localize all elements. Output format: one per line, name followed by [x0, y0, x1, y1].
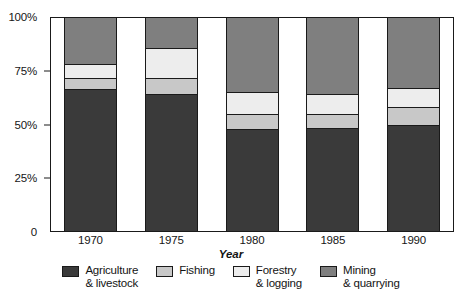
legend-label: Mining & quarrying	[343, 264, 400, 289]
bar-segment	[387, 125, 440, 232]
legend-label: Fishing	[179, 264, 215, 277]
legend-item: Mining & quarrying	[320, 264, 400, 289]
y-tick-label: 0	[31, 226, 37, 238]
bar-segment	[306, 17, 359, 94]
legend-swatch-icon	[233, 266, 250, 277]
legend-label: Agriculture & livestock	[85, 264, 138, 289]
bar-segment	[226, 129, 279, 232]
bar-segment	[145, 17, 198, 48]
plot-area: 100%75%50%25%0	[0, 0, 462, 240]
bar-segment	[387, 17, 440, 88]
bar-segment	[145, 78, 198, 94]
x-axis-title: Year	[0, 248, 462, 260]
bar-segment	[226, 92, 279, 114]
bar-segment	[64, 17, 117, 64]
bars-layer	[50, 17, 454, 232]
bar-group	[64, 17, 117, 232]
y-tick-mark	[44, 124, 51, 125]
x-tick-label: 1985	[320, 234, 345, 246]
legend-swatch-icon	[320, 266, 337, 277]
chart-legend: Agriculture & livestockFishingForestry &…	[0, 264, 462, 298]
legend-item: Fishing	[156, 264, 215, 277]
bar-segment	[226, 114, 279, 130]
bar-segment	[306, 114, 359, 129]
bar-segment	[64, 89, 117, 232]
bar-stack	[145, 17, 198, 232]
bar-stack	[64, 17, 117, 232]
y-axis: 100%75%50%25%0	[0, 0, 44, 240]
bar-segment	[226, 17, 279, 92]
bar-group	[145, 17, 198, 232]
bar-stack	[226, 17, 279, 232]
x-tick-label: 1970	[78, 234, 103, 246]
legend-item: Forestry & logging	[233, 264, 302, 289]
y-tick-label: 25%	[15, 172, 37, 184]
bar-stack	[387, 17, 440, 232]
bar-group	[387, 17, 440, 232]
y-tick-mark	[44, 178, 51, 179]
x-tick-label: 1975	[159, 234, 184, 246]
bar-segment	[387, 107, 440, 125]
bar-segment	[306, 94, 359, 114]
bar-segment	[145, 48, 198, 77]
bar-group	[226, 17, 279, 232]
y-tick-label: 75%	[15, 65, 37, 77]
bar-segment	[64, 64, 117, 78]
bar-group	[306, 17, 359, 232]
bar-segment	[64, 78, 117, 90]
bar-segment	[306, 128, 359, 232]
legend-swatch-icon	[62, 266, 79, 277]
y-tick-label: 50%	[15, 119, 37, 131]
legend-item: Agriculture & livestock	[62, 264, 138, 289]
stacked-bar-chart: 100%75%50%25%0 19701975198019851990 Year…	[0, 0, 462, 300]
x-tick-label: 1990	[401, 234, 426, 246]
bar-segment	[387, 88, 440, 107]
y-tick-label: 100%	[8, 11, 37, 23]
y-tick-mark	[44, 70, 51, 71]
x-tick-label: 1980	[240, 234, 265, 246]
legend-swatch-icon	[156, 266, 173, 277]
bar-stack	[306, 17, 359, 232]
legend-label: Forestry & logging	[256, 264, 302, 289]
bar-segment	[145, 94, 198, 233]
